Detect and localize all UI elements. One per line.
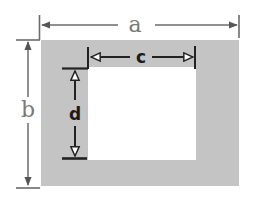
dimension-b: b (16, 40, 40, 188)
inner-opening (88, 67, 196, 160)
frame-dimension-diagram: a b c d (0, 0, 257, 198)
dimension-a: a (40, 12, 240, 40)
dimension-b-label: b (21, 97, 35, 122)
dimension-d-label: d (69, 104, 81, 124)
dimension-c-label: c (136, 47, 146, 67)
dimension-a-label: a (128, 12, 141, 37)
